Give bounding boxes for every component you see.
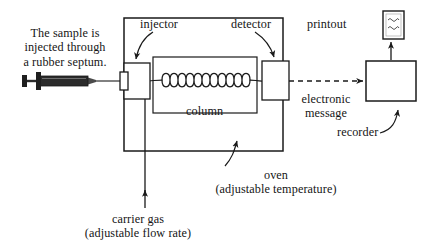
- recorder-label: recorder: [337, 125, 378, 139]
- gas-chromatograph-diagram: The sample is injected through a rubber …: [0, 0, 439, 248]
- injector-label: injector: [140, 17, 178, 31]
- detector-block: [262, 61, 289, 100]
- detector-callout-arrow: [255, 32, 274, 57]
- electronic-message-label: electronic message: [288, 92, 364, 121]
- recorder-box: [366, 61, 416, 101]
- carrier-gas-label: carrier gas (adjustable flow rate): [58, 212, 218, 241]
- septum-port: [120, 72, 128, 90]
- printout-sheet: [383, 11, 404, 39]
- oven-callout-arrow: [225, 141, 237, 166]
- oven-label: oven (adjustable temperature): [200, 168, 352, 197]
- sample-note-label: The sample is injected through a rubber …: [8, 26, 122, 69]
- column-coil: [145, 73, 262, 87]
- injector-callout-arrow: [136, 32, 153, 59]
- column-label: column: [186, 104, 223, 118]
- printout-label: printout: [307, 17, 346, 31]
- detector-label: detector: [231, 17, 271, 31]
- recorder-callout-arrow: [380, 110, 398, 133]
- syringe: [22, 72, 120, 90]
